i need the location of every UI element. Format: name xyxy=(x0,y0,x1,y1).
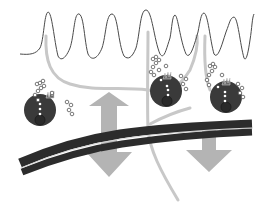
cell-1 xyxy=(24,79,74,126)
blood-vessel xyxy=(20,124,252,172)
nerve-fibers xyxy=(46,32,210,200)
diagram-canvas xyxy=(0,0,269,212)
waveform-trace xyxy=(20,10,254,59)
cell-3 xyxy=(205,62,245,113)
